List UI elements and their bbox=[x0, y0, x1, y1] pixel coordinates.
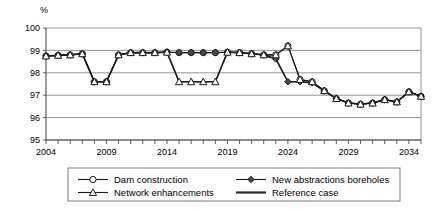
chart-legend: Dam constructionNew abstractions borehol… bbox=[68, 168, 400, 201]
x-tick-label-2019: 2019 bbox=[217, 147, 237, 157]
x-tick-label-2034: 2034 bbox=[399, 147, 419, 157]
chart-container: % 9596979899100 200420092014201920242029… bbox=[0, 0, 440, 211]
legend-marker-dam-construction bbox=[90, 176, 96, 182]
y-tick-label-96: 96 bbox=[30, 113, 40, 123]
x-tick-label-2014: 2014 bbox=[157, 147, 177, 157]
y-tick-label-98: 98 bbox=[30, 68, 40, 78]
legend-label-dam-construction: Dam construction bbox=[114, 174, 188, 185]
legend-label-network-enhancements: Network enhancements bbox=[114, 187, 214, 198]
x-tick-label-2009: 2009 bbox=[96, 147, 116, 157]
series-line-reference-case bbox=[46, 52, 421, 104]
x-axis-ticks-group: 2004200920142019202420292034 bbox=[36, 140, 421, 157]
legend-label-new-abstractions-boreholes: New abstractions boreholes bbox=[272, 174, 389, 185]
y-tick-label-97: 97 bbox=[30, 90, 40, 100]
gridlines-group bbox=[46, 28, 421, 140]
x-tick-label-2004: 2004 bbox=[36, 147, 56, 157]
y-tick-label-100: 100 bbox=[25, 23, 40, 33]
series-group bbox=[42, 42, 424, 107]
series-line-new-abstractions-boreholes bbox=[46, 52, 421, 104]
y-tick-label-99: 99 bbox=[30, 46, 40, 56]
x-tick-label-2029: 2029 bbox=[338, 147, 358, 157]
y-axis-ticks-group: 9596979899100 bbox=[25, 23, 46, 145]
datapoint-new-abstractions-boreholes-2024 bbox=[285, 79, 291, 85]
legend-label-reference-case: Reference case bbox=[272, 187, 339, 198]
line-chart-svg: 9596979899100 20042009201420192024202920… bbox=[0, 0, 440, 211]
y-tick-label-95: 95 bbox=[30, 135, 40, 145]
x-tick-label-2024: 2024 bbox=[278, 147, 298, 157]
